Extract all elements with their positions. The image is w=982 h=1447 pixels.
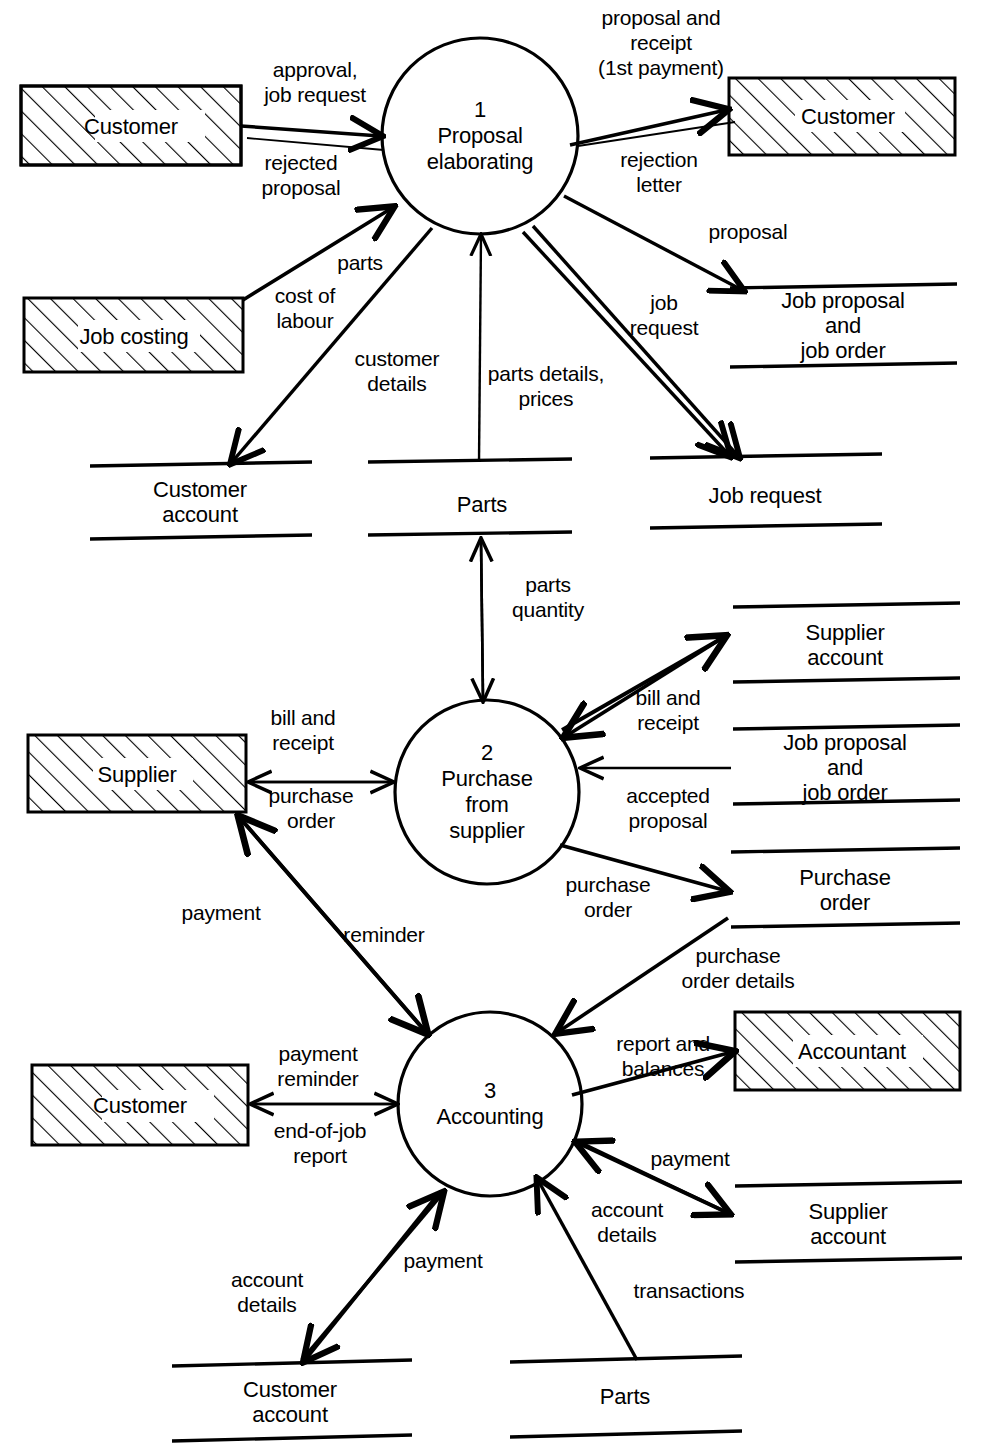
flow-label-reminder: reminder (343, 922, 424, 947)
store-label-customer-account-mid: Customer account (153, 477, 247, 527)
flow-rejected-proposal (247, 138, 384, 150)
store-label-job-proposal-order-mid: Job proposal and job order (777, 730, 914, 805)
flow-label-accepted-proposal: accepted proposal (626, 783, 710, 833)
flow-approval-job-request (241, 126, 380, 136)
flow-label-end-of-job-report: end-of-job report (274, 1118, 367, 1168)
process-1-label: 1 Proposal elaborating (427, 97, 534, 175)
entity-label-job-costing: Job costing (79, 324, 188, 349)
flow-parts-quantity-down (481, 540, 483, 700)
flow-label-payment-supplier-account: payment (650, 1146, 729, 1171)
store-label-parts-bottom: Parts (600, 1384, 650, 1409)
flow-label-bill-and-receipt-left: bill and receipt (271, 705, 336, 755)
data-flow-diagram: 1 Proposal elaborating 2 Purchase from s… (0, 0, 982, 1447)
entity-label-supplier: Supplier (97, 762, 176, 787)
store-label-customer-account-bottom: Customer account (243, 1377, 337, 1427)
store-label-parts-mid: Parts (457, 492, 507, 517)
entity-label-customer-bottom-left: Customer (93, 1093, 187, 1118)
flow-label-report-and-balances: report and balances (616, 1031, 710, 1081)
flow-label-purchase-order-supplier: purchase order (269, 783, 354, 833)
flow-label-customer-details: customer details (355, 346, 440, 396)
flow-label-purchase-order: purchase order (566, 872, 651, 922)
entity-label-accountant: Accountant (798, 1039, 906, 1064)
flow-label-account-details-customer: account details (231, 1267, 303, 1317)
flow-label-job-request: job request (630, 290, 699, 340)
flow-payment-from-customer-account (302, 1194, 442, 1360)
flow-label-purchase-order-details: purchase order details (682, 943, 795, 993)
flow-label-payment-supplier: payment (181, 900, 260, 925)
flow-label-rejected-proposal: rejected proposal (262, 150, 341, 200)
flow-label-bill-and-receipt-right: bill and receipt (636, 685, 701, 735)
flow-label-payment-reminder: payment reminder (277, 1041, 358, 1091)
store-label-job-proposal-order-top: Job proposal and job order (774, 288, 913, 363)
flow-label-proposal-and-receipt: proposal and receipt (1st payment) (598, 5, 724, 80)
process-3-label: 3 Accounting (437, 1078, 544, 1130)
entity-label-customer-top-right: Customer (801, 104, 895, 129)
flow-label-rejection-letter: rejection letter (620, 147, 698, 197)
flow-job-request-to-store (533, 226, 738, 456)
flow-label-account-details-supplier: account details (591, 1197, 663, 1247)
flow-label-approval-job-request: approval, job request (264, 57, 366, 107)
store-label-supplier-account-bottom: Supplier account (808, 1199, 887, 1249)
process-2-label: 2 Purchase from supplier (441, 740, 532, 844)
flow-label-transactions: transactions (634, 1278, 745, 1303)
flow-parts-details-prices (479, 236, 481, 462)
flow-label-proposal: proposal (709, 219, 788, 244)
store-label-job-request: Job request (709, 483, 822, 508)
flow-customer-details (232, 228, 432, 462)
flow-label-cost-of-labour: cost of labour (275, 283, 335, 333)
store-label-supplier-account-mid: Supplier account (805, 620, 884, 670)
store-label-purchase-order: Purchase order (799, 865, 890, 915)
flow-label-parts: parts (337, 250, 383, 275)
entity-label-customer-top-left: Customer (84, 114, 178, 139)
flow-label-parts-quantity: parts quantity (512, 572, 584, 622)
flow-label-parts-details-prices: parts details, prices (488, 361, 604, 411)
flow-label-payment-customer: payment (403, 1248, 482, 1273)
